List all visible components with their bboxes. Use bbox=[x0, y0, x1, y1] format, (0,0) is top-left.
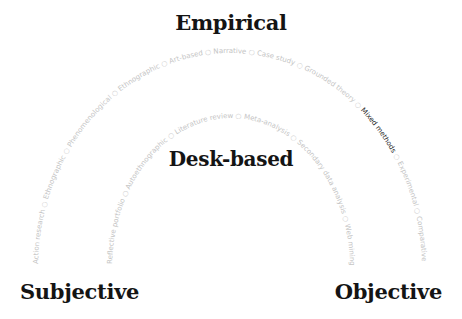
method-label: Meta-analysis bbox=[243, 113, 292, 138]
outer-arc-methods: Action research ○ Ethnographic ○ Phenome… bbox=[32, 47, 428, 264]
method-label: Autoethnographic bbox=[124, 136, 169, 191]
inner-arc-methods: Reflective portfolio ○ Autoethnographic … bbox=[106, 112, 356, 266]
method-label: Phenomenological bbox=[66, 94, 114, 149]
separator-icon: ○ bbox=[233, 112, 244, 121]
method-label: Ethnographic bbox=[42, 154, 67, 201]
separator-icon: ○ bbox=[412, 205, 422, 217]
method-label: Mixed methods bbox=[359, 106, 398, 154]
method-label: Action research bbox=[32, 209, 47, 264]
method-label: Narrative bbox=[213, 47, 247, 56]
method-label: Secondary data analysis bbox=[295, 138, 348, 215]
method-label: Comparative bbox=[415, 215, 428, 261]
method-label: Case study bbox=[256, 49, 296, 67]
method-label: Experimental bbox=[396, 160, 420, 207]
method-label: Grounded theory bbox=[303, 64, 357, 104]
separator-icon: ○ bbox=[246, 48, 258, 57]
method-label: Reflective portfolio bbox=[106, 197, 127, 264]
method-label: Literature review bbox=[173, 112, 233, 136]
separator-icon: ○ bbox=[202, 48, 214, 57]
method-label: Ethnographic bbox=[117, 62, 162, 93]
separator-icon: ○ bbox=[340, 213, 351, 225]
methods-arc-diagram: Action research ○ Ethnographic ○ Phenome… bbox=[0, 0, 462, 319]
method-label: Art-based bbox=[168, 49, 203, 65]
method-label: Web mining bbox=[343, 223, 356, 266]
separator-icon: ○ bbox=[39, 198, 50, 210]
